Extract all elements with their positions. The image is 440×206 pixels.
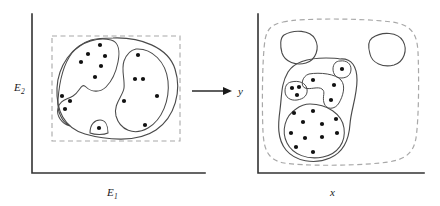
data-point [311,109,315,113]
data-point [155,94,159,98]
left-x-axis-label: E [106,186,114,198]
right-dashed-region [262,19,418,165]
data-point [93,75,97,79]
data-point [294,145,298,149]
left-y-axis-label-subscript: 2 [21,87,25,96]
left-dashed-region [52,36,180,141]
right-subcluster-points [122,53,159,127]
data-point [133,77,137,81]
figure-svg: E 2 E 1 [0,0,440,206]
tiny-subcluster-top-points [340,67,344,71]
data-point [292,111,296,115]
left-outer-cluster-boundary [57,38,178,139]
mapping-arrow [192,87,232,95]
small-left-subcluster-boundary [285,81,307,100]
left-y-axis-label: E [13,81,21,93]
data-point [320,135,324,139]
data-point [86,52,90,56]
data-point [334,117,338,121]
data-point [63,107,67,111]
data-point [99,64,103,68]
data-point [311,78,315,82]
data-point [141,77,145,81]
data-point [332,83,336,87]
left-panel: E 2 E 1 [13,14,205,201]
data-point [290,86,294,90]
data-point [340,67,344,71]
right-y-axis-label: y [237,85,243,97]
data-point [97,126,101,130]
data-point [136,53,140,57]
mapping-arrow-head [223,87,232,95]
left-x-axis-label-subscript: 1 [114,192,118,201]
data-point [329,98,333,102]
left-subcluster-points [60,43,107,111]
right-x-axis-label: x [329,186,335,198]
v-shaped-subcluster-boundary [302,73,343,108]
large-bottom-subcluster-points [289,109,339,154]
data-point [60,94,64,98]
data-point [303,136,307,140]
data-point [122,99,126,103]
data-point [289,131,293,135]
data-point [79,60,83,64]
data-point [143,123,147,127]
data-point [295,93,299,97]
figure-container: E 2 E 1 [0,0,440,206]
empty-blob-top-right [369,33,405,65]
data-point [301,120,305,124]
data-point [297,85,301,89]
small-bottom-subcluster-points [97,126,101,130]
data-point [68,99,72,103]
data-point [103,54,107,58]
data-point [98,43,102,47]
data-point [311,150,315,154]
right-panel: y x [237,14,424,198]
data-point [320,122,324,126]
small-left-subcluster-points [290,85,301,97]
right-subcluster-boundary [115,49,168,132]
data-point [335,131,339,135]
